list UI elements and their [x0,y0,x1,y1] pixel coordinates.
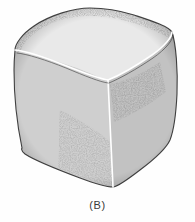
cube-illustration [0,0,195,196]
cube-illustration-svg [0,0,195,196]
figure-panel: (B) [0,0,195,222]
figure-caption: (B) [0,198,195,212]
